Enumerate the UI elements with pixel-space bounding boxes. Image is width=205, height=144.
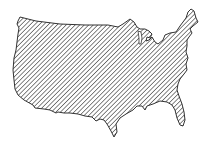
lake-michigan	[138, 31, 142, 44]
us-map-icon	[0, 0, 205, 144]
us-map-figure	[0, 0, 205, 144]
us-outline	[13, 9, 198, 137]
